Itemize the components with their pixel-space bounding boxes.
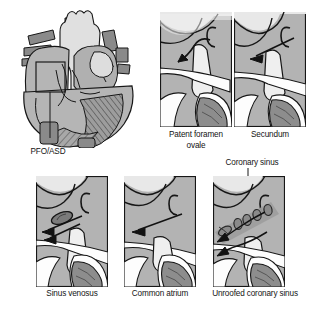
panel-patent-foramen-ovale [160,12,232,127]
caption-unroofed-coronary-sinus: Unroofed coronary sinus [204,289,306,300]
panel-secundum [234,12,306,127]
caption-common-atrium: Common atrium [116,289,204,300]
panel-sinus-venosus [36,176,108,287]
caption-pfo-asd: PFO/ASD [8,147,88,158]
annotation-coronary-sinus: Coronary sinus [196,158,308,169]
asd-types-figure: PFO/ASD Patent foramen ovale [0,0,314,312]
panel-unroofed-coronary-sinus [213,176,285,287]
caption-secundum: Secundum [228,130,312,141]
panel-common-atrium [124,176,196,287]
caption-sinus-venosus: Sinus venosus [28,289,116,300]
whole-heart-diagram [6,8,146,148]
